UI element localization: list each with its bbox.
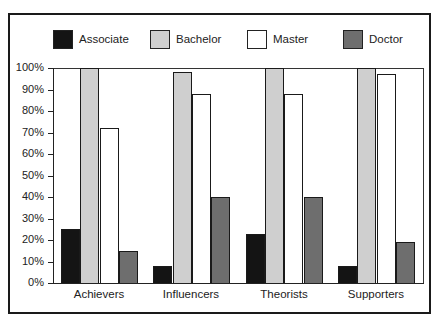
bar-master-theorists bbox=[284, 94, 303, 284]
bar-doctor-supporters bbox=[396, 242, 415, 284]
bar-master-influencers bbox=[192, 94, 211, 284]
bar-doctor-influencers bbox=[211, 197, 230, 284]
x-axis-line bbox=[48, 283, 424, 284]
legend-label: Associate bbox=[79, 33, 129, 45]
bar-associate-theorists bbox=[246, 234, 265, 284]
bachelor-swatch-icon bbox=[150, 30, 170, 49]
bar-doctor-achievers bbox=[119, 251, 138, 284]
y-tick-label: 30% bbox=[4, 212, 44, 224]
bar-master-supporters bbox=[377, 74, 396, 284]
x-category-label: Supporters bbox=[330, 288, 422, 300]
master-swatch-icon bbox=[247, 30, 267, 49]
associate-swatch-icon bbox=[53, 30, 73, 49]
doctor-swatch-icon bbox=[343, 30, 363, 49]
x-category-label: Influencers bbox=[145, 288, 237, 300]
bar-doctor-theorists bbox=[304, 197, 323, 284]
legend-item-bachelor: Bachelor bbox=[150, 28, 221, 50]
y-tick-label: 20% bbox=[4, 233, 44, 245]
y-axis-line bbox=[53, 68, 54, 284]
y-tick-label: 10% bbox=[4, 255, 44, 267]
y-tick-label: 70% bbox=[4, 126, 44, 138]
legend-item-master: Master bbox=[247, 28, 308, 50]
legend-label: Master bbox=[273, 33, 308, 45]
plot-right-line bbox=[423, 68, 424, 284]
y-tick-label: 60% bbox=[4, 147, 44, 159]
x-category-label: Achievers bbox=[53, 288, 145, 300]
bar-associate-achievers bbox=[61, 229, 80, 284]
x-category-label: Theorists bbox=[238, 288, 330, 300]
y-tick-label: 40% bbox=[4, 190, 44, 202]
y-tick-label: 0% bbox=[4, 276, 44, 288]
legend-item-doctor: Doctor bbox=[343, 28, 403, 50]
bar-bachelor-influencers bbox=[173, 72, 192, 284]
y-tick-label: 90% bbox=[4, 83, 44, 95]
legend-label: Doctor bbox=[369, 33, 403, 45]
legend-label: Bachelor bbox=[176, 33, 221, 45]
bar-associate-influencers bbox=[153, 266, 172, 284]
bar-bachelor-supporters bbox=[357, 68, 376, 284]
y-tick-label: 80% bbox=[4, 104, 44, 116]
y-tick-label: 100% bbox=[4, 61, 44, 73]
legend-item-associate: Associate bbox=[53, 28, 129, 50]
bar-bachelor-achievers bbox=[80, 68, 99, 284]
bar-bachelor-theorists bbox=[265, 68, 284, 284]
y-tick-label: 50% bbox=[4, 169, 44, 181]
bar-master-achievers bbox=[100, 128, 119, 284]
bar-associate-supporters bbox=[338, 266, 357, 284]
